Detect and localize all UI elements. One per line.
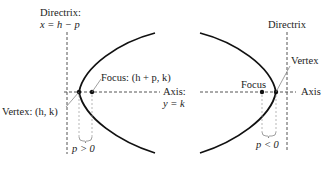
right-parabola-group: [200, 32, 296, 153]
right-axis-label: Axis: [301, 87, 321, 98]
right-p-condition: p < 0: [256, 140, 279, 151]
left-directrix-title: Directrix:: [40, 8, 81, 19]
left-vertex-leader-line: [66, 92, 79, 107]
left-axis-equation: y = k: [163, 99, 185, 110]
right-focus-label: Focus: [241, 80, 266, 91]
left-focus-leader-line: [92, 79, 101, 92]
left-directrix-equation: x = h − p: [40, 20, 80, 31]
left-focus-label: Focus: (h + p, k): [101, 73, 171, 84]
right-p-brace: [262, 132, 276, 138]
right-vertex-leader-line: [276, 66, 290, 92]
right-directrix-label: Directrix: [268, 20, 306, 31]
right-vertex-label: Vertex: [291, 56, 318, 67]
left-vertex-label: Vertex: (h, k): [2, 107, 58, 118]
right-parabola-curve: [200, 33, 276, 153]
left-p-condition: p > 0: [72, 144, 95, 155]
left-parabola-group: [64, 32, 160, 154]
left-axis-title: Axis:: [163, 87, 186, 98]
